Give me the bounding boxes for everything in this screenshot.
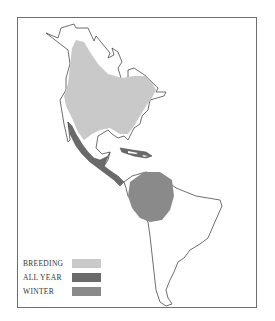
breeding-swatch xyxy=(72,259,101,268)
breeding-range xyxy=(64,40,156,140)
legend-label: WINTER xyxy=(23,286,54,297)
winter-swatch xyxy=(72,287,101,296)
legend-label: ALL YEAR xyxy=(23,272,62,283)
legend-label: BREEDING xyxy=(23,258,63,269)
all-year-swatch xyxy=(72,273,101,282)
